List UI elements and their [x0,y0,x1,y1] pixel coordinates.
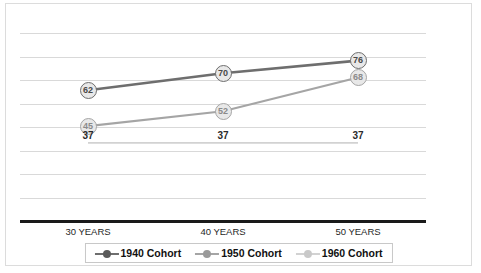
legend-label: 1960 Cohort [322,247,383,259]
legend-item-1960-cohort[interactable]: 1960 Cohort [296,247,383,259]
x-axis-tick-labels: 30 YEARS40 YEARS50 YEARS [20,226,426,240]
chart-frame: 627076455268373737 30 YEARS40 YEARS50 YE… [5,3,472,266]
data-point-label: 62 [80,82,97,99]
x-axis-tick-label: 50 YEARS [335,226,380,237]
circle-marker-light-icon [296,249,320,258]
x-axis-tick-label: 30 YEARS [65,226,110,237]
data-point-label: 37 [215,127,232,144]
legend-label: 1950 Cohort [221,247,282,259]
circle-marker-medium-icon [195,249,219,258]
data-point-label: 70 [215,65,232,82]
legend-item-1950-cohort[interactable]: 1950 Cohort [195,247,282,259]
data-point-label: 37 [350,127,367,144]
legend-label: 1940 Cohort [120,247,181,259]
data-point-label: 37 [80,127,97,144]
x-axis-tick-label: 40 YEARS [200,226,245,237]
legend-item-1940-cohort[interactable]: 1940 Cohort [94,247,181,259]
circle-marker-dark-icon [94,249,118,258]
plot-area: 627076455268373737 [20,10,426,221]
x-axis-baseline [20,220,426,223]
chart-legend: 1940 Cohort 1950 Cohort 1960 Cohort [84,243,392,263]
data-point-label: 68 [350,69,367,86]
data-point-label: 52 [215,103,232,120]
data-point-label: 76 [350,52,367,69]
